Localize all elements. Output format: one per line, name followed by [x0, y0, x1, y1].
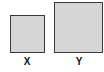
label-y: Y	[69, 57, 89, 67]
square-y	[54, 2, 103, 53]
square-x	[10, 15, 45, 53]
label-x: X	[17, 57, 37, 67]
